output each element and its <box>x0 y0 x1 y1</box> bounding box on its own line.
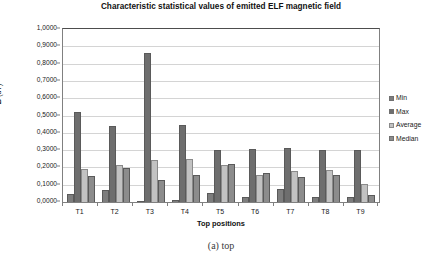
legend-item-min: Min <box>389 94 442 102</box>
bar-average-t8 <box>326 170 333 202</box>
bar-average-t7 <box>291 171 298 202</box>
legend-swatch-min-icon <box>389 96 394 101</box>
y-axis-tick-label: 0,6000 <box>37 93 57 101</box>
y-axis-tick-mark <box>57 62 60 63</box>
chart-legend: Min Max Average Median <box>389 94 442 148</box>
bar-group <box>98 29 133 202</box>
y-axis-tick-label: 0,2000 <box>37 162 57 170</box>
bar-min-t7 <box>277 189 284 202</box>
bar-max-t3 <box>144 53 151 202</box>
bar-median-t1 <box>88 176 95 202</box>
legend-swatch-average-icon <box>389 123 394 128</box>
bar-group <box>309 29 344 202</box>
legend-swatch-median-icon <box>389 136 394 141</box>
bar-max-t9 <box>354 150 361 202</box>
y-axis-tick-mark <box>57 149 60 150</box>
y-axis-tick-label: 0,1000 <box>37 180 57 188</box>
legend-item-median: Median <box>389 135 442 143</box>
y-axis-title: B (uT) <box>0 84 3 104</box>
bar-min-t9 <box>347 197 354 202</box>
bar-group <box>203 29 238 202</box>
y-axis-tick-label: 0,8000 <box>37 59 57 67</box>
legend-label-min: Min <box>396 94 407 102</box>
legend-swatch-max-icon <box>389 109 394 114</box>
x-axis-tick-label-t7: T7 <box>286 207 294 216</box>
y-axis-tick-mark <box>57 131 60 132</box>
x-axis-tick-mark <box>238 203 239 206</box>
bar-min-t8 <box>312 197 319 202</box>
bar-max-t6 <box>249 149 256 202</box>
bar-min-t2 <box>102 190 109 202</box>
y-axis-tick-mark <box>57 183 60 184</box>
bar-median-t7 <box>298 177 305 202</box>
bar-average-t2 <box>116 165 123 202</box>
x-axis-tick-label-t3: T3 <box>146 207 154 216</box>
y-axis-tick-label: 0,9000 <box>37 41 57 49</box>
bar-min-t4 <box>172 200 179 202</box>
bar-group <box>133 29 168 202</box>
bar-average-t9 <box>361 184 368 202</box>
x-axis-tick-mark <box>308 203 309 206</box>
bar-max-t5 <box>214 150 221 202</box>
bar-group <box>168 29 203 202</box>
y-axis-tick-label: 1,0000 <box>37 24 57 32</box>
bar-min-t5 <box>207 193 214 202</box>
y-axis-tick-mark <box>57 114 60 115</box>
x-axis-tick-label-t4: T4 <box>181 207 189 216</box>
bar-average-t5 <box>221 165 228 202</box>
bar-average-t1 <box>81 169 88 202</box>
y-axis-tick-label: 0,7000 <box>37 76 57 84</box>
x-axis-tick-mark <box>167 203 168 206</box>
y-axis-tick-labels: 0,00000,10000,20000,30000,40000,50000,60… <box>20 28 60 203</box>
legend-label-max: Max <box>396 108 409 116</box>
bar-min-t6 <box>242 197 249 202</box>
legend-item-average: Average <box>389 121 442 129</box>
bar-group <box>63 29 98 202</box>
bar-median-t8 <box>333 175 340 202</box>
x-axis-tick-mark <box>132 203 133 206</box>
y-axis-tick-mark <box>57 97 60 98</box>
legend-label-median: Median <box>396 135 418 143</box>
bar-max-t2 <box>109 126 116 202</box>
y-axis-tick-mark <box>57 45 60 46</box>
y-axis-tick-label: 0,3000 <box>37 145 57 153</box>
bar-max-t4 <box>179 125 186 202</box>
x-axis-tick-label-t2: T2 <box>111 207 119 216</box>
figure-caption: (a) top <box>0 240 442 251</box>
bar-min-t3 <box>137 201 144 202</box>
y-axis-tick-label: 0,5000 <box>37 111 57 119</box>
bar-max-t7 <box>284 148 291 202</box>
y-axis-tick-mark <box>57 166 60 167</box>
bar-group <box>344 29 379 202</box>
bar-group <box>274 29 309 202</box>
legend-item-max: Max <box>389 108 442 116</box>
bar-max-t8 <box>319 150 326 202</box>
x-axis-tick-mark <box>202 203 203 206</box>
bar-median-t2 <box>123 168 130 202</box>
y-axis-title-unit: (uT) <box>0 84 3 99</box>
y-axis-tick-label: 0,0000 <box>37 197 57 205</box>
bar-max-t1 <box>74 112 81 202</box>
x-axis-tick-label-t9: T9 <box>356 207 364 216</box>
y-axis-title-symbol: B <box>0 99 3 104</box>
x-axis-tick-label-t5: T5 <box>216 207 224 216</box>
bar-median-t6 <box>263 173 270 202</box>
y-axis-tick-mark <box>57 79 60 80</box>
x-axis-tick-mark <box>62 203 63 206</box>
bar-average-t3 <box>151 160 158 202</box>
x-axis-tick-label-t1: T1 <box>75 207 83 216</box>
y-axis-tick-mark <box>57 201 60 202</box>
plot-area <box>62 28 380 203</box>
x-axis-title: Top positions <box>62 219 380 228</box>
bar-median-t5 <box>228 164 235 202</box>
bar-median-t9 <box>368 195 375 202</box>
bar-average-t6 <box>256 175 263 202</box>
y-axis-tick-mark <box>57 28 60 29</box>
figure-top-positions: Characteristic statistical values of emi… <box>0 0 442 263</box>
x-axis-tick-mark <box>377 203 378 206</box>
bar-median-t4 <box>193 175 200 202</box>
x-axis-tick-label-t8: T8 <box>321 207 329 216</box>
legend-label-average: Average <box>396 121 421 129</box>
x-axis-tick-label-t6: T6 <box>251 207 259 216</box>
x-axis-tick-labels: T1T2T3T4T5T6T7T8T9 <box>62 203 380 219</box>
